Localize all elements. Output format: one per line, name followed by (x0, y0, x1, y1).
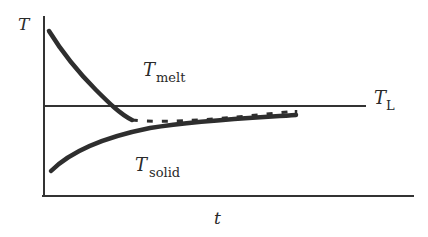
y-axis-label: T (18, 14, 31, 34)
temperature-time-diagram: T t T melt T solid T L (0, 0, 428, 237)
x-axis-label: t (214, 208, 221, 228)
solid-label-main: T (135, 154, 149, 175)
solid-label-sub: solid (149, 165, 180, 180)
solid-temperature-curve (51, 115, 296, 171)
liquidus-label-sub: L (386, 98, 395, 113)
melt-label-sub: melt (156, 70, 186, 85)
melt-label-main: T (143, 59, 157, 80)
